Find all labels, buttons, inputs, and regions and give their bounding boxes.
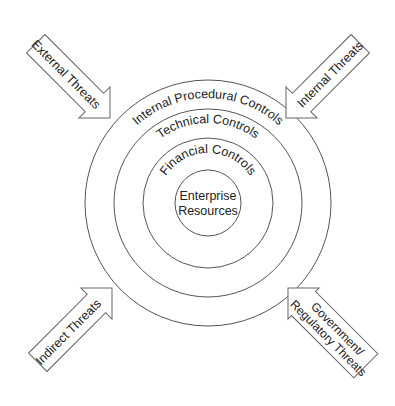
enterprise-label-line1: Enterprise: [180, 189, 237, 203]
arrow-indirect-threats: Indirect Threats: [22, 272, 128, 378]
ring-financial: [143, 138, 273, 268]
arrow-internal-threats: Internal Threats: [270, 28, 376, 134]
arrow-external-threats: External Threats: [18, 26, 125, 133]
ring-label-technical: Technical Controls: [154, 112, 262, 141]
diagram-svg: Internal Procedural Controls Technical C…: [0, 0, 395, 406]
ring-enterprise: [175, 170, 241, 236]
label-indirect-threats: Indirect Threats: [33, 297, 104, 368]
label-internal-threats: Internal Threats: [294, 39, 366, 111]
label-external-threats: External Threats: [29, 37, 104, 112]
enterprise-label-line2: Resources: [178, 204, 238, 218]
ring-technical: [114, 109, 302, 297]
arrow-government-regulatory-threats: Government/ Regulatory Threats: [272, 272, 384, 384]
ring-label-financial: Financial Controls: [157, 142, 259, 178]
defense-rings-diagram: Internal Procedural Controls Technical C…: [0, 0, 395, 406]
